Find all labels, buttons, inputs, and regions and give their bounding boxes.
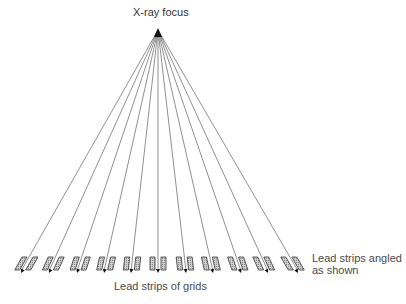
arrowhead-icon xyxy=(21,269,25,273)
lead-strip xyxy=(253,257,264,270)
lead-strip xyxy=(228,257,237,270)
lead-strips xyxy=(15,257,305,270)
lead-strip xyxy=(161,257,166,270)
lead-strip xyxy=(201,257,209,270)
arrowhead-icon xyxy=(184,269,188,273)
x-ray-beams xyxy=(21,30,298,271)
ray-line xyxy=(158,30,186,271)
lead-strip xyxy=(123,257,129,270)
ray-line xyxy=(158,30,241,271)
arrowhead-icon xyxy=(103,269,107,273)
lead-strip xyxy=(176,257,182,270)
ray-line xyxy=(158,30,268,271)
lead-strip xyxy=(281,257,293,270)
lead-strip xyxy=(108,257,116,270)
lead-strip xyxy=(97,257,105,270)
ray-line xyxy=(131,30,158,271)
lead-strip xyxy=(81,257,90,270)
ray-line xyxy=(49,30,158,271)
arrowhead-icon xyxy=(210,269,214,273)
ray-line xyxy=(158,30,298,271)
arrowhead-icon xyxy=(76,269,80,273)
ray-line xyxy=(21,30,158,271)
x-ray-focus-label: X-ray focus xyxy=(133,6,189,18)
lead-strip xyxy=(187,257,193,270)
angled-label-line2: as shown xyxy=(312,264,402,276)
arrowhead-icon xyxy=(156,269,160,273)
arrowhead-icon xyxy=(265,269,269,273)
arrowhead-icon xyxy=(294,269,298,273)
arrowhead-icon xyxy=(129,269,133,273)
lead-strips-of-grids-label: Lead strips of grids xyxy=(114,280,207,292)
focus-point-icon xyxy=(154,28,162,37)
arrowhead-icon xyxy=(49,269,53,273)
lead-strip xyxy=(134,257,140,270)
ray-arrowheads xyxy=(21,269,298,273)
ray-line xyxy=(77,30,158,271)
ray-line xyxy=(104,30,158,271)
angled-label-line1: Lead strips angled xyxy=(312,252,402,264)
ray-line xyxy=(158,30,213,271)
lead-strips-angled-label: Lead strips angled as shown xyxy=(312,252,402,276)
lead-strip xyxy=(150,257,155,270)
arrowhead-icon xyxy=(238,269,242,273)
lead-strip xyxy=(42,257,53,270)
lead-strip xyxy=(264,257,275,270)
lead-strip xyxy=(53,257,64,270)
lead-strip xyxy=(212,257,220,270)
